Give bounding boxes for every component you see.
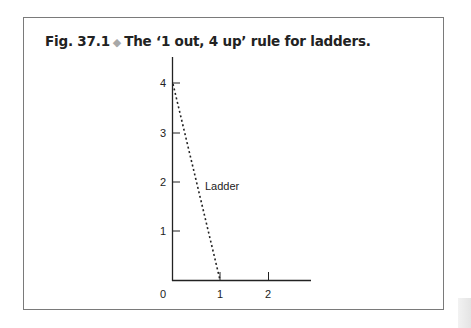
y-label-3: 3 bbox=[160, 127, 166, 139]
ladder-label: Ladder bbox=[205, 180, 240, 192]
y-label-1: 1 bbox=[160, 225, 166, 237]
ladder-diagram: 4 3 2 1 0 1 2 Ladder bbox=[0, 0, 471, 328]
y-label-2: 2 bbox=[160, 176, 166, 188]
page-edge-shadow bbox=[458, 298, 471, 328]
origin-label: 0 bbox=[160, 288, 166, 300]
x-label-2: 2 bbox=[265, 288, 271, 300]
y-label-4: 4 bbox=[160, 77, 166, 89]
x-label-1: 1 bbox=[217, 288, 223, 300]
